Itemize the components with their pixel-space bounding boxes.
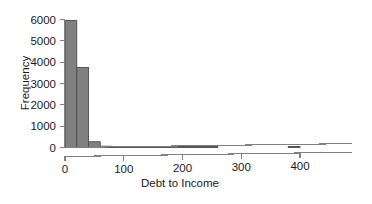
x-tick-label: 0: [62, 163, 68, 175]
histogram-bar: [183, 147, 195, 148]
y-tick-label: 5000: [30, 35, 56, 47]
histogram-bar: [65, 21, 77, 148]
x-tick-label: 300: [232, 161, 251, 173]
y-tick-label: 2000: [30, 99, 56, 111]
x-tick-label: 100: [114, 163, 133, 175]
histogram-chart: 0100020003000400050006000 Frequency 0100…: [0, 0, 372, 204]
x-tick-label: 400: [290, 160, 309, 172]
y-tick-label: 6000: [30, 14, 56, 26]
y-tick-label: 0: [50, 142, 56, 154]
histogram-bar: [206, 147, 218, 148]
histogram-bar: [171, 147, 183, 148]
y-tick-label: 4000: [30, 56, 56, 68]
y-tick-label: 1000: [30, 120, 56, 132]
x-axis-title: Debt to Income: [141, 177, 219, 189]
histogram-bar: [77, 68, 89, 148]
y-axis-title: Frequency: [19, 56, 31, 111]
chart-canvas: 0100020003000400050006000 Frequency 0100…: [0, 0, 372, 204]
y-tick-label: 3000: [30, 78, 56, 90]
histogram-bar: [288, 147, 300, 148]
histogram-bar: [194, 147, 206, 148]
x-tick-label: 200: [173, 162, 192, 174]
